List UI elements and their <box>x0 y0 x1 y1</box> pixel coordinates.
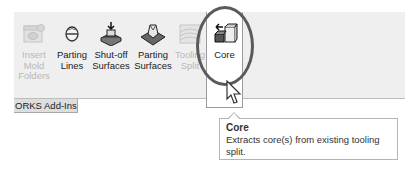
tooltip-title: Core <box>226 122 391 134</box>
button-label-line: Parting <box>133 50 173 61</box>
tooltip-description: Extracts core(s) from existing tooling <box>226 134 391 146</box>
button-label-line: Insert <box>16 50 52 61</box>
shut-off-surfaces-button[interactable]: Shut-off Surfaces <box>90 22 132 71</box>
parting-surfaces-button[interactable]: Parting Surfaces <box>133 22 173 71</box>
button-label-line: Shut-off <box>90 50 132 61</box>
tooltip-pointer-fill <box>229 113 239 119</box>
button-label-line: Surfaces <box>133 61 173 72</box>
button-label-line: Surfaces <box>90 61 132 72</box>
mouse-cursor-icon <box>226 80 244 110</box>
highlight-ellipse <box>196 6 254 86</box>
tooltip-description-cont: split. <box>226 146 391 158</box>
insert-mold-folders-icon <box>21 22 47 46</box>
tooltip: Core Extracts core(s) from existing tool… <box>219 118 398 160</box>
button-label-line: Folders <box>16 71 52 82</box>
button-label-line: Parting <box>54 50 90 61</box>
button-label-line: Lines <box>54 61 90 72</box>
shut-off-surfaces-icon <box>98 22 124 46</box>
insert-mold-folders-button[interactable]: Insert Mold Folders <box>16 22 52 82</box>
parting-surfaces-icon <box>140 22 166 46</box>
parting-lines-button[interactable]: Parting Lines <box>54 22 90 71</box>
parting-lines-icon <box>59 22 85 46</box>
tab-solidworks-add-ins[interactable]: ORKS Add-Ins <box>14 99 78 113</box>
